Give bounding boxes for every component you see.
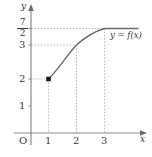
origin-label: O: [19, 136, 27, 146]
y-axis-label: y: [21, 2, 26, 11]
x-tick-label-2: 2: [73, 136, 79, 146]
fraction-numerator: 7: [17, 18, 28, 27]
x-tick-label-1: 1: [45, 136, 51, 146]
fraction-denominator: 2: [17, 29, 28, 38]
y-tick-label-1: 1: [19, 101, 25, 111]
y-tick-label-2: 2: [19, 74, 25, 84]
y-tick-label-3: 3: [19, 40, 25, 50]
y-axis-arrowhead: [28, 4, 34, 11]
x-tick-label-3: 3: [101, 136, 107, 146]
point-marker-1-2: [46, 77, 51, 82]
guide-lines: [31, 29, 105, 134]
x-axis-label: x: [140, 135, 145, 144]
function-label: y = f(x): [110, 31, 142, 40]
function-graph-figure: y x O 1 2 3 1 2 3 7 2 y = f(x): [0, 0, 152, 157]
y-tick-label-7-over-2: 7 2: [17, 18, 28, 38]
